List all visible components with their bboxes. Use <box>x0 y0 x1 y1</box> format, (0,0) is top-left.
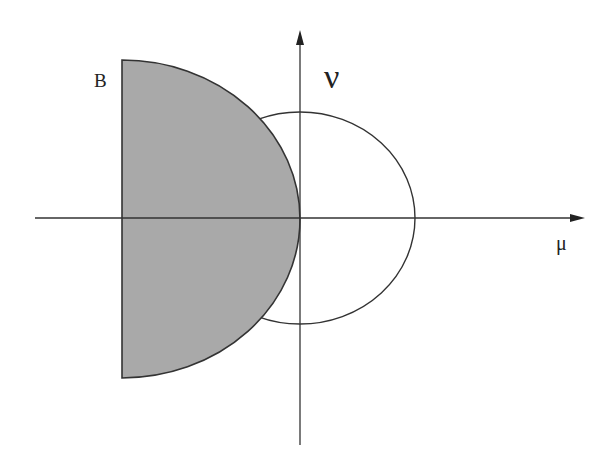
mu-axis-arrow-icon <box>570 214 585 222</box>
mu-axis-label: μ <box>556 232 567 255</box>
nu-axis-arrow-icon <box>296 30 304 45</box>
nu-axis-label: ν <box>324 58 339 96</box>
region-label-b: B <box>94 70 107 92</box>
diagram-canvas <box>0 0 616 469</box>
shaded-region-b <box>122 60 300 378</box>
